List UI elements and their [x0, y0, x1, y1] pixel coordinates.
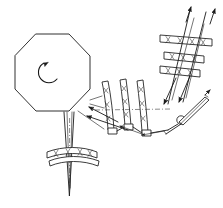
blade-1: [102, 81, 114, 130]
arc-bar-lower: [49, 157, 99, 167]
lever-tip-arrow: [205, 90, 210, 97]
flow-arrow-up-right-b: [210, 9, 215, 24]
ladder-bar-upper: [160, 35, 212, 46]
blade-3: [137, 80, 148, 132]
diagram-canvas: [0, 0, 223, 208]
blade-2: [120, 79, 131, 126]
flow-arrow-left-a: [89, 107, 118, 122]
ladder-bar-middle: [164, 52, 204, 63]
rotation-arrow-icon: [38, 62, 57, 83]
lever-base-link: [164, 124, 181, 134]
octagon-rotor: [15, 34, 90, 111]
technical-drawing: [0, 0, 223, 208]
ladder-bar-lower: [160, 66, 200, 77]
flow-arrow-up-right-a: [186, 7, 191, 22]
